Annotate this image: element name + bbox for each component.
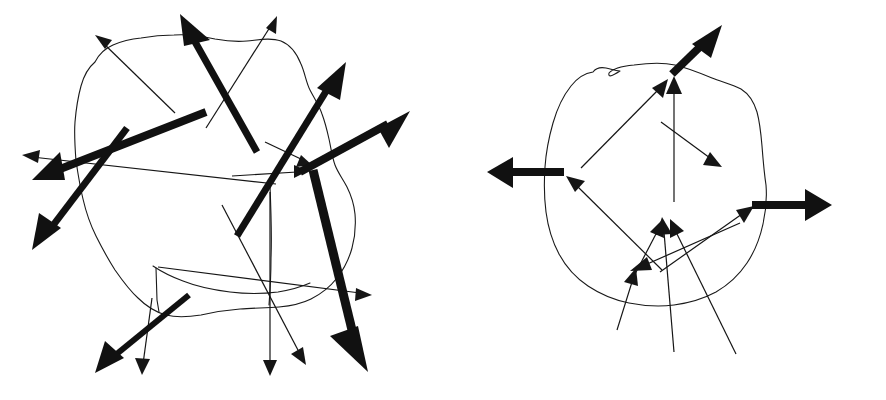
thick-arrow-L-T6 bbox=[313, 170, 368, 372]
left-blob-diagram bbox=[0, 0, 443, 400]
thin-arrow-R-t4 bbox=[660, 206, 754, 272]
figure-root bbox=[0, 0, 886, 400]
thin-arrow-L-t2 bbox=[206, 16, 277, 128]
thin-arrow-L-t6 bbox=[263, 192, 277, 376]
thin-arrow-R-t3 bbox=[566, 176, 662, 270]
thick-arrow-R-T1 bbox=[672, 25, 722, 74]
right-blob-diagram bbox=[443, 0, 886, 400]
thick-arrow-L-T5 bbox=[300, 111, 410, 172]
thick-arrow-L-T4 bbox=[32, 112, 206, 180]
thin-arrow-R-t9 bbox=[617, 268, 638, 330]
inner-contour-left-2 bbox=[156, 268, 159, 312]
inner-contour-left bbox=[153, 266, 310, 294]
thin-arrow-R-t2 bbox=[666, 76, 682, 202]
thick-arrow-L-T1 bbox=[180, 14, 257, 152]
thin-arrow-L-t1 bbox=[95, 35, 175, 113]
thick-arrow-R-T2 bbox=[487, 157, 564, 188]
thin-arrow-R-t6 bbox=[630, 223, 740, 271]
thin-arrow-R-t1 bbox=[581, 79, 668, 168]
thin-arrow-R-t5 bbox=[661, 122, 722, 167]
thick-arrow-R-T3 bbox=[752, 189, 832, 221]
